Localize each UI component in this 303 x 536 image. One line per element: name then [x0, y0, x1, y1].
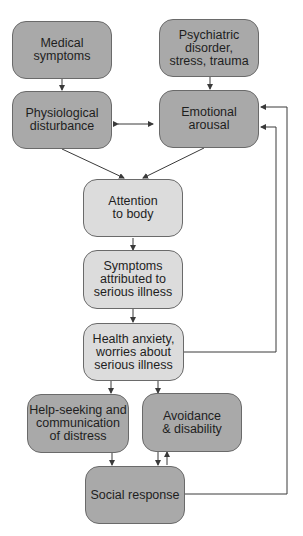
node-emotional-arousal: Emotionalarousal [159, 90, 259, 148]
node-text: to body [108, 208, 157, 221]
node-text: worries about [93, 346, 175, 359]
node-text: stress, trauma [160, 55, 258, 68]
node-medical-symptoms: Medicalsymptoms [12, 21, 112, 79]
node-text: & disability [162, 423, 222, 436]
node-health-anxiety: Health anxiety,worries aboutserious illn… [83, 323, 184, 381]
node-text: Social response [91, 489, 180, 502]
node-text: Avoidance [162, 410, 222, 423]
node-text: Psychiatric disorder, [160, 29, 258, 55]
node-avoidance-disability: Avoidance& disability [142, 393, 242, 452]
node-psychiatric-disorder: Psychiatric disorder,stress, trauma [159, 19, 259, 77]
node-text: serious illness [94, 286, 173, 299]
node-text: of distress [29, 430, 126, 443]
node-attention-to-body: Attentionto body [83, 179, 183, 237]
node-symptoms-attributed: Symptomsattributed toserious illness [83, 250, 183, 309]
node-text: serious illness [93, 359, 175, 372]
node-help-seeking: Help-seeking andcommunicationof distress [27, 394, 129, 453]
node-text: Health anxiety, [93, 333, 175, 346]
node-text: symptoms [34, 50, 91, 63]
node-text: arousal [181, 119, 237, 132]
node-physiological-disturbance: Physiologicaldisturbance [12, 91, 112, 149]
node-social-response: Social response [85, 466, 185, 524]
node-text: disturbance [26, 120, 99, 133]
